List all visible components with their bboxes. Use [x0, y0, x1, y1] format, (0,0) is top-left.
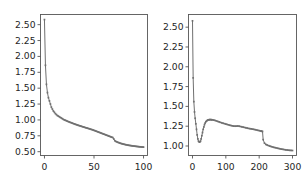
y-axis-tick-label: 2.25	[163, 42, 183, 51]
y-axis-tick-label: 1.50	[15, 84, 35, 93]
x-axis-tick-label: 50	[88, 162, 100, 171]
x-axis-tick-label: 100	[217, 162, 235, 171]
y-axis-tick-label: 1.75	[15, 68, 35, 77]
x-axis-tick-label: 300	[284, 162, 302, 171]
x-axis-tick-label: 200	[250, 162, 268, 171]
y-axis-tick-label: 2.50	[15, 20, 35, 29]
y-axis-tick-label: 2.25	[15, 36, 35, 45]
y-axis-tick-label: 2.50	[163, 23, 183, 32]
x-axis-tick-label: 100	[135, 162, 153, 171]
figure-container: 0.500.751.001.251.501.752.002.252.500501…	[0, 0, 304, 187]
y-axis-tick-label: 1.75	[163, 82, 183, 91]
chart-panel-right: 1.001.251.501.752.002.252.500100200300	[152, 0, 304, 187]
x-axis-tick-label: 0	[190, 162, 196, 171]
y-axis-tick-label: 0.75	[15, 131, 35, 140]
y-axis-tick-label: 1.00	[163, 141, 183, 150]
y-axis-tick-label: 0.50	[15, 147, 35, 156]
chart-panel-left: 0.500.751.001.251.501.752.002.252.500501…	[0, 0, 152, 187]
y-axis-tick-label: 1.25	[15, 99, 35, 108]
x-axis-tick-label: 0	[42, 162, 48, 171]
y-axis-tick-label: 2.00	[163, 62, 183, 71]
y-axis-tick-label: 2.00	[15, 52, 35, 61]
y-axis-tick-label: 1.00	[15, 115, 35, 124]
y-axis-tick-label: 1.25	[163, 122, 183, 131]
y-axis-tick-label: 1.50	[163, 102, 183, 111]
